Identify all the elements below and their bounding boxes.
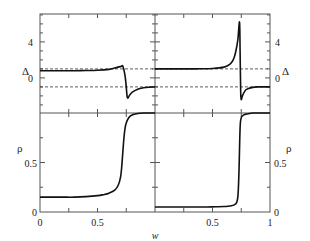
x-tick-label-05-left: 0.5: [91, 217, 104, 228]
y-tick-label-4-right: 4: [275, 37, 280, 48]
y-tick-label-0-delta-left: 0: [28, 73, 33, 84]
chart-figure: Δ Δ ρ ρ 4 0 4 0 0.5 0 0.5 0 0 0.5 0.5 1 …: [0, 0, 310, 241]
y-tick-label-05-rho-right: 0.5: [274, 158, 287, 169]
x-axis-label: w: [152, 230, 159, 241]
x-tick-label-0: 0: [38, 217, 43, 228]
y-tick-label-05-rho-left: 0.5: [25, 158, 38, 169]
curve-bottom-right: [155, 113, 270, 207]
y-tick-label-0-rho-right: 0: [274, 207, 279, 218]
x-tick-label-1: 1: [268, 217, 273, 228]
y-tick-label-4-left: 4: [28, 37, 33, 48]
curve-top-right: [155, 22, 270, 100]
y-axis-label-rho-left: ρ: [17, 142, 23, 154]
y-tick-label-0-delta-right: 0: [275, 73, 280, 84]
y-axis-label-rho-right: ρ: [286, 142, 292, 154]
curve-bottom-left: [40, 113, 155, 197]
y-axis-label-delta-right: Δ: [282, 65, 289, 77]
curve-top-left: [40, 65, 155, 98]
x-tick-label-05-right: 0.5: [206, 217, 219, 228]
y-tick-label-0-rho-left: 0: [32, 207, 37, 218]
